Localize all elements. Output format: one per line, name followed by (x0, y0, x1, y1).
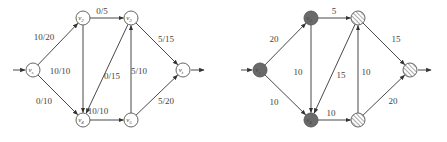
edge-label-v4-v5: 10/10 (88, 106, 109, 116)
node-circle (351, 11, 365, 25)
edge-label-v5-vt: 5/20 (158, 96, 175, 106)
node-vs: vs (253, 63, 267, 77)
edge-vs-v4 (38, 75, 78, 115)
node-circle (403, 63, 417, 77)
edge-label-v4-v5: 10 (327, 108, 337, 118)
node-v5: v5 (124, 113, 138, 127)
edge-label-v5-vt: 20 (389, 96, 399, 106)
node-v5 (351, 113, 365, 127)
edge-label-v3-v4: 15 (337, 70, 347, 80)
flow-network-graph: 10/200/100/510/100/155/105/1510/105/20vs… (13, 6, 204, 127)
edge-label-v2-v3: 5 (332, 6, 337, 16)
edge-label-v5-v3: 10 (362, 67, 372, 77)
edge-label-v2-v4: 10 (294, 67, 304, 77)
node-circle (351, 113, 365, 127)
node-v2: v2 (76, 11, 90, 25)
node-vt (403, 63, 417, 77)
node-v2: v2 (304, 11, 318, 25)
edge-label-v2-v3: 0/5 (96, 6, 108, 16)
node-v3 (351, 11, 365, 25)
edge-vs-v2 (38, 23, 78, 65)
node-vt: vt (176, 63, 190, 77)
edge-label-v3-v4: 0/15 (104, 71, 121, 81)
diagram-canvas: 10/200/100/510/100/155/105/1510/105/20vs… (0, 0, 447, 142)
node-v4: v4 (304, 113, 318, 127)
edge-label-vs-v4: 10 (270, 97, 280, 107)
edge-label-v3-vt: 5/15 (158, 34, 175, 44)
node-v3: v3 (124, 11, 138, 25)
edge-label-v2-v4: 10/10 (50, 66, 71, 76)
node-v4: v4 (76, 113, 90, 127)
node-vs: vs (26, 63, 40, 77)
edge-label-v5-v3: 5/10 (131, 66, 148, 76)
edge-vs-v2 (265, 23, 306, 65)
edge-v3-v4 (314, 24, 355, 113)
edge-vs-v4 (265, 75, 306, 115)
residual-cut-graph: 20105101510151020vsv2v4 (241, 6, 431, 127)
edge-label-vs-v2: 10/20 (34, 32, 55, 42)
edge-label-vs-v2: 20 (270, 34, 280, 44)
edge-v3-v4 (86, 24, 128, 113)
edge-label-vs-v4: 0/10 (36, 96, 53, 106)
edge-v5-vt (363, 75, 405, 115)
edge-label-v3-vt: 15 (392, 34, 402, 44)
